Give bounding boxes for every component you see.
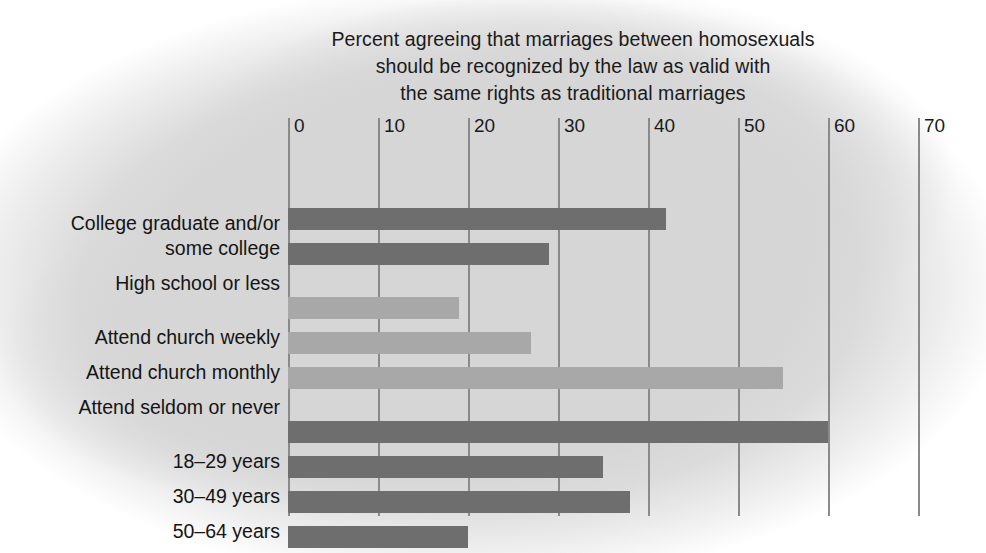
- category-label-6: 30–49 years: [12, 484, 280, 509]
- bar-1: [288, 243, 549, 265]
- category-label-5-line-0: 18–29 years: [12, 449, 280, 474]
- bar-7: [288, 491, 630, 513]
- category-label-5: 18–29 years: [12, 449, 280, 474]
- category-label-3: Attend church monthly: [12, 360, 280, 385]
- category-label-1-line-0: High school or less: [12, 271, 280, 296]
- bar-3: [288, 332, 531, 354]
- chart-title-line-2: should be recognized by the law as valid…: [293, 53, 853, 80]
- category-label-0-line-1: some college: [12, 236, 280, 261]
- category-label-0: College graduate and/orsome college: [12, 211, 280, 261]
- x-tick-label-30: 30: [558, 115, 585, 137]
- bar-6: [288, 456, 603, 478]
- category-label-4-line-0: Attend seldom or never: [12, 395, 280, 420]
- gridline-70: [918, 118, 920, 516]
- chart-figure: Percent agreeing that marriages between …: [0, 0, 986, 553]
- bar-8: [288, 526, 468, 548]
- bar-5: [288, 421, 828, 443]
- category-label-2-line-0: Attend church weekly: [12, 325, 280, 350]
- plot-area: 010203040506070: [288, 118, 918, 516]
- category-labels: College graduate and/orsome collegeHigh …: [10, 149, 280, 519]
- x-tick-label-10: 10: [378, 115, 405, 137]
- x-tick-label-20: 20: [468, 115, 495, 137]
- chart-title-line-1: Percent agreeing that marriages between …: [293, 26, 853, 53]
- category-label-3-line-0: Attend church monthly: [12, 360, 280, 385]
- x-tick-label-40: 40: [648, 115, 675, 137]
- category-label-7: 50–64 years: [12, 519, 280, 544]
- category-label-7-line-0: 50–64 years: [12, 519, 280, 544]
- bar-0: [288, 208, 666, 230]
- bar-4: [288, 367, 783, 389]
- category-label-0-line-0: College graduate and/or: [12, 211, 280, 236]
- category-label-6-line-0: 30–49 years: [12, 484, 280, 509]
- category-label-2: Attend church weekly: [12, 325, 280, 350]
- bar-2: [288, 297, 459, 319]
- chart-title: Percent agreeing that marriages between …: [293, 26, 853, 107]
- category-label-1: High school or less: [12, 271, 280, 296]
- x-tick-label-0: 0: [288, 115, 305, 137]
- bar-series: [288, 149, 918, 516]
- x-tick-label-50: 50: [738, 115, 765, 137]
- x-tick-label-60: 60: [828, 115, 855, 137]
- x-tick-label-70: 70: [918, 115, 945, 137]
- category-label-4: Attend seldom or never: [12, 395, 280, 420]
- chart-title-line-3: the same rights as traditional marriages: [293, 80, 853, 107]
